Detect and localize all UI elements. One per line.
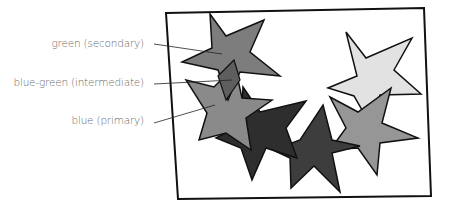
stars-diagram [0,0,452,205]
